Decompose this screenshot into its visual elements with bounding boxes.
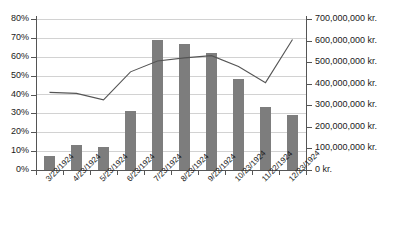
x-axis-tick	[252, 171, 253, 175]
y-axis-right-tick	[307, 170, 312, 171]
x-axis-tick	[90, 171, 91, 175]
y-axis-left-tick	[31, 151, 36, 152]
y-axis-left-tick-label: 10%	[11, 146, 29, 155]
x-axis-tick	[225, 171, 226, 175]
y-axis-left-tick-label: 30%	[11, 108, 29, 117]
y-axis-right-tick-label: 0 kr.	[315, 165, 332, 174]
y-axis-right-tick-label: 100,000,000 kr.	[315, 143, 377, 152]
y-axis-left-tick-label: 20%	[11, 127, 29, 136]
x-axis-tick	[117, 171, 118, 175]
y-axis-right	[306, 16, 307, 173]
y-axis-right-tick	[307, 41, 312, 42]
y-axis-right-tick-label: 700,000,000 kr.	[315, 14, 377, 23]
chart-container: 0%10%20%30%40%50%60%70%80% 0 kr.100,000,…	[0, 0, 403, 238]
y-axis-right-tick-label: 500,000,000 kr.	[315, 57, 377, 66]
x-axis-tick	[198, 171, 199, 175]
y-axis-right-tick-label: 400,000,000 kr.	[315, 79, 377, 88]
y-axis-left-tick	[31, 57, 36, 58]
y-axis-right-tick-label: 200,000,000 kr.	[315, 122, 377, 131]
y-axis-right-tick	[307, 62, 312, 63]
x-axis-tick	[279, 171, 280, 175]
x-axis-tick	[171, 171, 172, 175]
y-axis-left-tick	[31, 113, 36, 114]
y-axis-left-tick-label: 60%	[11, 52, 29, 61]
y-axis-left-tick	[31, 76, 36, 77]
y-axis-left-tick-label: 50%	[11, 71, 29, 80]
y-axis-left-tick	[31, 38, 36, 39]
y-axis-left-tick-label: 0%	[16, 165, 29, 174]
y-axis-left-tick-label: 40%	[11, 90, 29, 99]
y-axis-left-tick	[31, 95, 36, 96]
y-axis-right-tick	[307, 105, 312, 106]
line-series	[36, 19, 306, 170]
y-axis-right-tick	[307, 148, 312, 149]
x-axis-tick	[36, 171, 37, 175]
y-axis-right-tick	[307, 19, 312, 20]
y-axis-right-tick	[307, 127, 312, 128]
y-axis-left-tick-label: 70%	[11, 33, 29, 42]
y-axis-left-tick-label: 80%	[11, 14, 29, 23]
y-axis-left-tick	[31, 19, 36, 20]
x-axis-tick	[144, 171, 145, 175]
y-axis-left-tick	[31, 132, 36, 133]
x-axis-tick	[63, 171, 64, 175]
y-axis-right-tick-label: 300,000,000 kr.	[315, 100, 377, 109]
y-axis-right-tick	[307, 84, 312, 85]
y-axis-left	[36, 16, 37, 173]
y-axis-right-tick-label: 600,000,000 kr.	[315, 36, 377, 45]
x-axis-tick	[306, 171, 307, 175]
